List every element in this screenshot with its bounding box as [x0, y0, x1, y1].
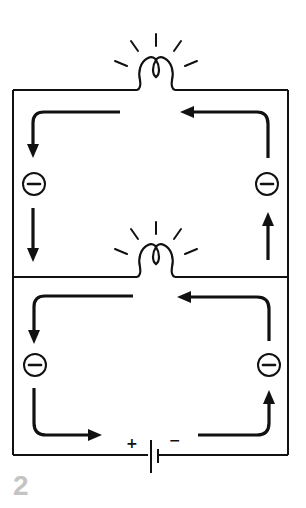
light-ray — [185, 61, 197, 66]
lamp-middle — [115, 222, 197, 277]
flow-arrow-mid-left — [34, 296, 133, 334]
lamp-filament-loop — [153, 247, 159, 264]
light-ray — [185, 249, 197, 254]
battery: + − — [126, 432, 181, 473]
lamp-filament-loop — [153, 60, 159, 77]
figure-number: 2 — [13, 470, 29, 502]
electron — [256, 173, 278, 195]
lamp-top — [115, 34, 197, 90]
flow-arrow-mid-right — [187, 297, 269, 341]
electron — [24, 354, 46, 376]
electron — [258, 354, 280, 376]
light-ray — [174, 41, 181, 51]
lower-loop-flow — [34, 296, 269, 435]
circuit-diagram: + − — [0, 0, 306, 508]
light-ray — [131, 229, 138, 239]
light-ray — [115, 249, 127, 254]
wires — [13, 90, 288, 455]
upper-loop-flow — [33, 112, 268, 260]
flow-arrow-top-right — [190, 112, 268, 158]
electron — [23, 173, 45, 195]
light-ray — [115, 61, 127, 66]
flow-arrow-bottom-left — [34, 388, 92, 435]
battery-positive-label: + — [126, 435, 138, 451]
flow-arrow-top-left — [33, 112, 120, 148]
light-ray — [174, 229, 181, 239]
flow-arrow-bottom-right — [198, 400, 269, 435]
light-ray — [131, 41, 138, 51]
battery-negative-label: − — [169, 432, 181, 448]
